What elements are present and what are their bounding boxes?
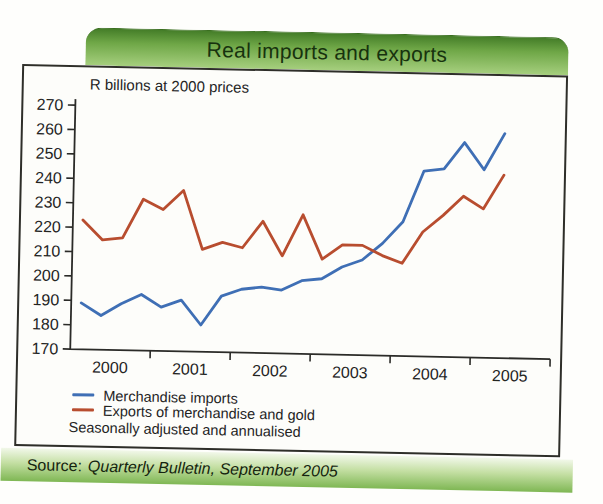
x-tick-label: 2001 xyxy=(172,360,208,378)
legend: Merchandise imports Exports of merchandi… xyxy=(72,387,316,422)
axes xyxy=(70,99,555,359)
source-text: Quarterly Bulletin, September 2005 xyxy=(88,457,338,480)
y-tick-label: 260 xyxy=(36,120,63,138)
x-tick-label: 2004 xyxy=(412,365,448,383)
chart-title: Real imports and exports xyxy=(206,37,447,66)
scanned-page: Real imports and exports R billions at 2… xyxy=(0,0,603,504)
y-tick-label: 200 xyxy=(33,267,60,285)
y-tick-label: 220 xyxy=(34,218,61,236)
y-tick-label: 240 xyxy=(35,169,62,187)
y-tick-label: 270 xyxy=(36,96,63,114)
report-card: Real imports and exports R billions at 2… xyxy=(12,26,581,493)
chart-box: R billions at 2000 prices 27026025024023… xyxy=(14,64,568,457)
y-tick-label: 250 xyxy=(35,145,62,163)
y-tick-label: 190 xyxy=(32,291,59,309)
y-tick-label: 170 xyxy=(31,340,58,358)
exports-line xyxy=(82,166,504,265)
line-chart: 2702602502402302202102001901801702000200… xyxy=(18,90,566,393)
x-tick-label: 2002 xyxy=(252,362,288,380)
x-tick-label: 2005 xyxy=(492,367,528,385)
x-tick-label: 2000 xyxy=(92,359,128,377)
y-tick-label: 230 xyxy=(34,193,61,211)
y-tick-label: 210 xyxy=(33,242,60,260)
y-tick-label: 180 xyxy=(32,315,59,333)
footnote: Seasonally adjusted and annualised xyxy=(68,419,300,440)
x-tick-label: 2003 xyxy=(332,364,368,382)
exports-line-swatch xyxy=(72,408,94,411)
imports-line xyxy=(81,125,505,331)
imports-line-swatch xyxy=(72,393,94,396)
source-label: Source: xyxy=(27,456,83,475)
